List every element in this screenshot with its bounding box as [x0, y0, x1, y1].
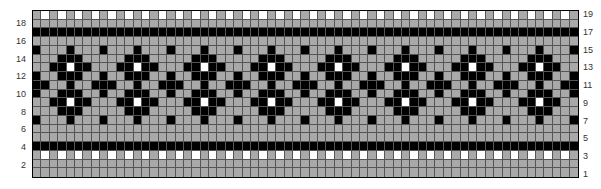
stitch-cell: [377, 72, 385, 81]
stitch-cell: [150, 168, 158, 177]
stitch-cell: [486, 46, 494, 55]
stitch-cell: [268, 116, 276, 125]
stitch-cell: [486, 168, 494, 177]
stitch-cell: [318, 142, 326, 151]
stitch-cell: [410, 107, 418, 116]
stitch-cell: [419, 72, 427, 81]
stitch-cell: [209, 160, 217, 169]
stitch-cell: [360, 142, 368, 151]
stitch-cell: [75, 168, 83, 177]
stitch-cell: [184, 81, 192, 90]
stitch-cell: [301, 55, 309, 64]
stitch-cell: [536, 55, 544, 64]
stitch-cell: [461, 142, 469, 151]
stitch-cell: [419, 20, 427, 29]
stitch-cell: [226, 72, 234, 81]
stitch-cell: [192, 63, 200, 72]
stitch-cell: [301, 63, 309, 72]
stitch-cell: [368, 37, 376, 46]
stitch-cell: [293, 55, 301, 64]
stitch-cell: [352, 151, 360, 160]
stitch-cell: [544, 107, 552, 116]
stitch-cell: [343, 63, 351, 72]
stitch-cell: [435, 133, 443, 142]
stitch-cell: [360, 151, 368, 160]
stitch-cell: [469, 28, 477, 37]
stitch-cell: [519, 28, 527, 37]
stitch-cell: [486, 133, 494, 142]
stitch-cell: [201, 63, 209, 72]
stitch-cell: [41, 46, 49, 55]
stitch-cell: [461, 151, 469, 160]
stitch-cell: [167, 142, 175, 151]
stitch-cell: [444, 151, 452, 160]
stitch-cell: [360, 133, 368, 142]
stitch-cell: [259, 107, 267, 116]
stitch-cell: [33, 46, 41, 55]
stitch-cell: [209, 107, 217, 116]
stitch-cell: [461, 72, 469, 81]
stitch-cell: [402, 46, 410, 55]
stitch-cell: [310, 20, 318, 29]
stitch-cell: [209, 90, 217, 99]
stitch-cell: [452, 107, 460, 116]
stitch-cell: [92, 81, 100, 90]
stitch-cell: [310, 90, 318, 99]
stitch-cell: [58, 116, 66, 125]
stitch-cell: [268, 46, 276, 55]
stitch-cell: [318, 37, 326, 46]
stitch-cell: [461, 116, 469, 125]
stitch-cell: [268, 142, 276, 151]
stitch-cell: [410, 28, 418, 37]
stitch-cell: [410, 133, 418, 142]
stitch-cell: [83, 55, 91, 64]
stitch-cell: [293, 160, 301, 169]
stitch-cell: [259, 98, 267, 107]
stitch-cell: [503, 81, 511, 90]
stitch-cell: [419, 160, 427, 169]
stitch-cell: [570, 72, 578, 81]
stitch-cell: [201, 72, 209, 81]
stitch-cell: [343, 160, 351, 169]
stitch-cell: [519, 133, 527, 142]
stitch-cell: [435, 20, 443, 29]
stitch-cell: [50, 63, 58, 72]
stitch-cell: [427, 142, 435, 151]
knitting-chart: [32, 10, 579, 178]
stitch-cell: [243, 55, 251, 64]
stitch-cell: [159, 98, 167, 107]
stitch-cell: [234, 98, 242, 107]
stitch-cell: [117, 125, 125, 134]
stitch-cell: [259, 142, 267, 151]
stitch-cell: [528, 81, 536, 90]
stitch-cell: [201, 37, 209, 46]
stitch-cell: [217, 98, 225, 107]
stitch-cell: [41, 142, 49, 151]
stitch-cell: [209, 37, 217, 46]
stitch-cell: [544, 142, 552, 151]
stitch-cell: [150, 116, 158, 125]
stitch-cell: [435, 81, 443, 90]
stitch-cell: [67, 28, 75, 37]
stitch-cell: [469, 90, 477, 99]
stitch-cell: [310, 11, 318, 20]
stitch-cell: [209, 46, 217, 55]
stitch-cell: [544, 151, 552, 160]
stitch-cell: [251, 81, 259, 90]
stitch-cell: [343, 72, 351, 81]
stitch-cell: [67, 72, 75, 81]
stitch-cell: [301, 160, 309, 169]
stitch-cell: [226, 81, 234, 90]
stitch-cell: [519, 37, 527, 46]
stitch-cell: [125, 160, 133, 169]
stitch-cell: [385, 98, 393, 107]
stitch-cell: [159, 72, 167, 81]
stitch-cell: [310, 168, 318, 177]
stitch-cell: [377, 151, 385, 160]
stitch-cell: [125, 125, 133, 134]
stitch-cell: [570, 46, 578, 55]
stitch-cell: [293, 28, 301, 37]
stitch-cell: [335, 28, 343, 37]
stitch-cell: [226, 168, 234, 177]
stitch-cell: [310, 160, 318, 169]
